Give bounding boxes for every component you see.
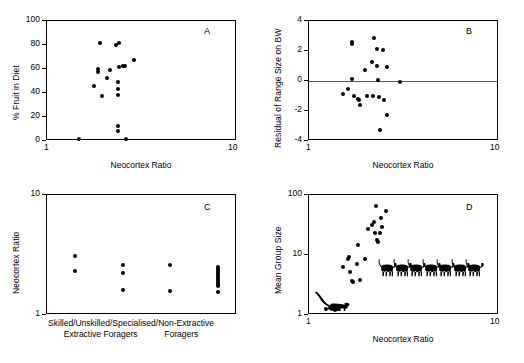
y-tick-label: 100 bbox=[268, 188, 302, 198]
data-point bbox=[341, 92, 345, 96]
data-point bbox=[377, 95, 381, 99]
x-tick-label: 1 bbox=[44, 142, 49, 152]
data-point bbox=[375, 64, 379, 68]
y-tick-mark bbox=[304, 140, 308, 141]
data-point bbox=[357, 98, 361, 102]
data-point bbox=[373, 231, 377, 235]
data-point bbox=[351, 280, 355, 284]
data-point bbox=[363, 68, 367, 72]
panel-a-letter: A bbox=[204, 26, 210, 36]
panel-b: Residual of Range Size on BW -4-2024 110… bbox=[262, 0, 524, 182]
data-point bbox=[73, 269, 77, 273]
panel-b-zero-reference-line bbox=[309, 81, 497, 82]
data-point bbox=[105, 76, 109, 80]
data-point bbox=[216, 290, 220, 294]
panel-a-plot-area bbox=[46, 20, 236, 140]
y-tick-label: 1 bbox=[268, 308, 302, 318]
y-tick-mark bbox=[42, 140, 46, 141]
data-point bbox=[350, 42, 354, 46]
y-tick-label: 10 bbox=[6, 188, 40, 198]
x-tick-label: 10 bbox=[228, 142, 237, 152]
data-point bbox=[375, 47, 379, 51]
data-point bbox=[370, 60, 374, 64]
data-point bbox=[376, 78, 380, 82]
data-point bbox=[98, 41, 102, 45]
data-point bbox=[384, 209, 388, 213]
data-point bbox=[96, 70, 100, 74]
data-point bbox=[121, 263, 125, 267]
data-point bbox=[116, 80, 120, 84]
y-tick-mark bbox=[42, 314, 46, 315]
panel-d-x-axis-label: Neocortex Ratio bbox=[308, 334, 498, 344]
y-tick-label: 20 bbox=[6, 110, 40, 120]
data-point bbox=[168, 289, 172, 293]
panel-c-y-axis-label: Neocortex Ratio bbox=[11, 232, 21, 294]
data-point bbox=[117, 41, 121, 45]
monkey-silhouette bbox=[462, 257, 487, 278]
panel-d-letter: D bbox=[466, 202, 473, 212]
data-point bbox=[379, 216, 383, 220]
figure-panel-grid: % Fruit in Diet 020406080100 110 Neocort… bbox=[0, 0, 524, 363]
data-point bbox=[100, 94, 104, 98]
panel-b-letter: B bbox=[466, 26, 472, 36]
y-tick-label: 0 bbox=[6, 134, 40, 144]
y-tick-label: 10 bbox=[268, 248, 302, 258]
data-point bbox=[380, 225, 384, 229]
data-point bbox=[116, 87, 120, 91]
data-point bbox=[372, 36, 376, 40]
y-tick-label: 2 bbox=[268, 44, 302, 54]
prosimian-silhouette bbox=[315, 291, 352, 312]
x-tick-label: 1 bbox=[306, 316, 311, 326]
data-point bbox=[73, 254, 77, 258]
data-point bbox=[382, 98, 386, 102]
data-point bbox=[116, 129, 120, 133]
panel-c-category-line-2: Extractive Foragers Foragers bbox=[0, 329, 262, 340]
panel-c-category-line-1: Skilled/Unskilled/Specialised/Non-Extrac… bbox=[0, 318, 262, 329]
y-tick-mark bbox=[304, 314, 308, 315]
data-point bbox=[108, 68, 112, 72]
data-point bbox=[121, 271, 125, 275]
data-point bbox=[371, 94, 375, 98]
data-point bbox=[378, 128, 382, 132]
x-tick-label: 10 bbox=[490, 316, 499, 326]
panel-b-x-axis-label: Neocortex Ratio bbox=[308, 160, 498, 170]
data-point bbox=[350, 77, 354, 81]
panel-c: Neocortex Ratio 110 Skilled/Unskilled/Sp… bbox=[0, 182, 262, 363]
x-tick-label: 10 bbox=[490, 142, 499, 152]
panel-c-category-labels: Skilled/Unskilled/Specialised/Non-Extrac… bbox=[0, 318, 262, 340]
y-tick-label: 60 bbox=[6, 62, 40, 72]
data-point bbox=[77, 137, 81, 141]
data-point bbox=[116, 124, 120, 128]
data-point bbox=[348, 270, 352, 274]
data-point bbox=[121, 288, 125, 292]
data-point bbox=[363, 257, 367, 261]
data-point bbox=[356, 243, 360, 247]
data-point bbox=[116, 93, 120, 97]
data-point bbox=[216, 284, 220, 288]
y-tick-label: -4 bbox=[268, 134, 302, 144]
panel-d-y-axis-label: Mean Group Size bbox=[273, 226, 283, 294]
data-point bbox=[365, 94, 369, 98]
data-point bbox=[123, 64, 127, 68]
data-point bbox=[398, 80, 402, 84]
data-point bbox=[376, 240, 380, 244]
data-point bbox=[374, 204, 378, 208]
y-tick-label: -2 bbox=[268, 104, 302, 114]
data-point bbox=[132, 58, 136, 62]
panel-a: % Fruit in Diet 020406080100 110 Neocort… bbox=[0, 0, 262, 182]
panel-d: Mean Group Size 110100 110 Neocortex Rat… bbox=[262, 182, 524, 363]
data-point bbox=[92, 84, 96, 88]
data-point bbox=[358, 278, 362, 282]
data-point bbox=[385, 65, 389, 69]
panel-c-letter: C bbox=[204, 202, 211, 212]
data-point bbox=[366, 227, 370, 231]
data-point bbox=[341, 265, 345, 269]
data-point bbox=[355, 262, 359, 266]
data-point bbox=[372, 220, 376, 224]
data-point bbox=[378, 231, 382, 235]
y-tick-label: 1 bbox=[6, 308, 40, 318]
y-tick-label: 0 bbox=[268, 74, 302, 84]
panel-a-x-axis-label: Neocortex Ratio bbox=[46, 160, 236, 170]
x-tick-label: 1 bbox=[306, 142, 311, 152]
data-point bbox=[124, 137, 128, 141]
